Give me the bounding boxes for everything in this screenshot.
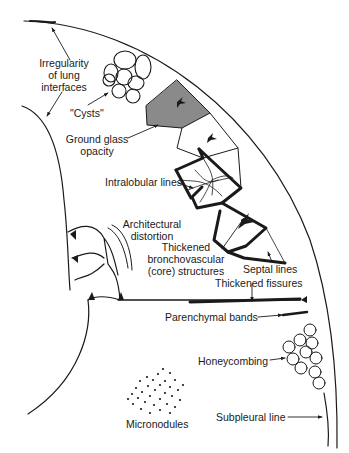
label-micronodules: Micronodules [126, 418, 188, 430]
honeycombing-cluster [283, 324, 325, 389]
label-bronchovascular: Thickened bronchovascular (core) structu… [142, 241, 230, 277]
micronodules-cluster [127, 368, 184, 414]
bronchus-glyph-2 [207, 133, 217, 143]
label-subpleural: Subpleural line [216, 411, 285, 423]
intralobular-inner [176, 149, 203, 170]
arrow-irregularity-top [52, 28, 70, 60]
arrow-parenchymal [258, 315, 282, 317]
subpleural-line [324, 393, 328, 446]
intralobular-lobule [192, 149, 241, 208]
label-fissures: Thickened fissures [215, 277, 303, 289]
label-irregularity: Irregularity of lung interfaces [28, 57, 100, 93]
label-ground-glass: Ground glass opacity [60, 133, 134, 157]
cysts-cluster [103, 51, 151, 103]
label-cysts: "Cysts" [70, 107, 104, 119]
inner-border-lower [28, 300, 89, 414]
label-honeycombing: Honeycombing [198, 355, 268, 367]
arrow-honeycombing [270, 358, 285, 360]
arrow-cysts [88, 93, 108, 105]
label-architectural: Architectural distortion [118, 218, 186, 242]
arrow-irregularity-bottom [47, 92, 62, 116]
label-intralobular: Intralobular lines [105, 176, 182, 188]
label-parenchymal: Parenchymal bands [165, 311, 258, 323]
label-septal: Septal lines [243, 263, 297, 275]
parenchymal-band [283, 312, 307, 315]
